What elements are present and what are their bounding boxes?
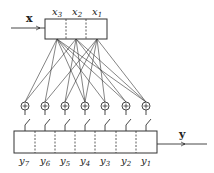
adder-icon [122,102,130,110]
switch-icon [146,110,151,131]
adders [21,102,150,110]
cell-label-y4: y4 [79,155,90,168]
cell-label-x2: x2 [72,6,83,19]
cell-label-y7: y7 [18,155,30,168]
adder-icon [21,102,29,110]
switch-icon [65,110,70,131]
adder-icon [142,102,150,110]
input-label: x [26,12,33,25]
connection-lines [25,39,146,102]
switch-icon [126,110,131,131]
cell-label-x1: x1 [92,6,102,19]
cell-label-x3: x3 [52,6,63,19]
input-register [45,19,107,39]
adder-icon [61,102,69,110]
output-register [14,131,157,153]
encoder-diagram: x x3 x2 x1 [0,0,214,173]
switch-icon [25,110,30,131]
switch-icon [105,110,110,131]
cell-label-y2: y2 [120,155,132,168]
switches [25,110,151,131]
switch-icon [45,110,50,131]
switch-icon [85,110,90,131]
cell-label-y5: y5 [59,155,71,168]
cell-label-y6: y6 [39,155,51,168]
adder-icon [41,102,49,110]
output-label: y [178,128,186,141]
cell-label-y1: y1 [140,155,151,168]
cell-label-y3: y3 [99,155,111,168]
adder-icon [81,102,89,110]
adder-icon [101,102,109,110]
